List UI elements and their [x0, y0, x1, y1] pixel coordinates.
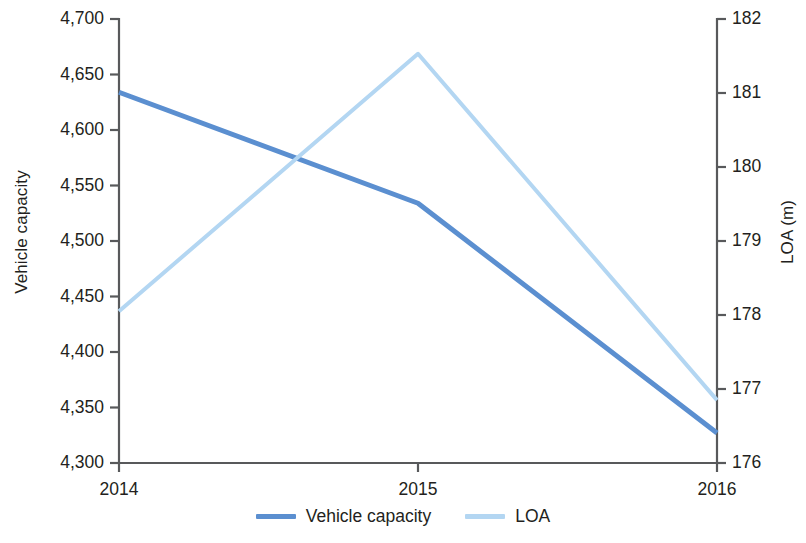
line-chart: Vehicle capacity LOA (m) 4,3004,3504,400…	[0, 0, 806, 543]
legend-label: LOA	[515, 508, 550, 526]
legend-label: Vehicle capacity	[306, 508, 432, 526]
legend-swatch-icon	[465, 514, 505, 519]
legend-item[interactable]: Vehicle capacity	[256, 508, 432, 526]
chart-legend: Vehicle capacityLOA	[0, 508, 806, 526]
series-line-vehicle-capacity	[119, 92, 717, 433]
legend-item[interactable]: LOA	[465, 508, 550, 526]
series-lines	[119, 54, 717, 433]
legend-swatch-icon	[256, 514, 296, 519]
axis-lines	[110, 18, 726, 472]
series-line-loa	[119, 54, 717, 400]
plot-area	[0, 0, 806, 543]
